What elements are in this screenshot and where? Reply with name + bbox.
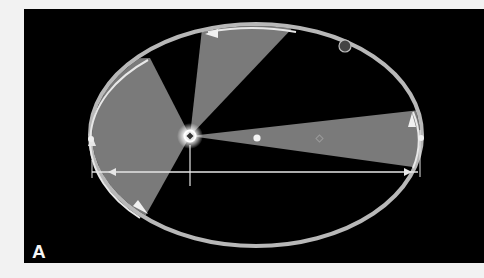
aphelion-marker <box>88 136 94 142</box>
sector-top <box>190 20 300 136</box>
panel-label: A <box>32 242 46 261</box>
orbit-svg <box>0 0 484 278</box>
planet-icon <box>339 40 351 52</box>
perihelion-marker <box>418 135 424 141</box>
sector-right <box>190 110 420 168</box>
kepler-orbit-diagram <box>24 9 484 263</box>
center-marker <box>253 134 260 141</box>
